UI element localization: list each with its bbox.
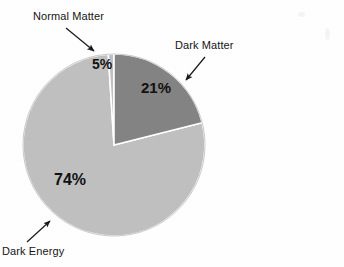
pie-chart-svg [0,0,344,267]
slice-value-dark-energy: 74% [54,171,86,189]
pie-chart-figure: Normal Matter Dark Matter Dark Energy 5%… [0,0,344,267]
slice-value-dark-matter: 21% [141,79,171,96]
slice-value-normal-matter: 5% [92,56,112,72]
arrow-normal-matter [66,28,94,51]
annotation-label-normal-matter: Normal Matter [33,10,104,23]
annotation-label-dark-matter: Dark Matter [175,39,234,52]
annotation-label-dark-energy: Dark Energy [2,245,64,258]
arrow-dark-matter [186,57,205,80]
arrow-dark-energy [27,221,50,242]
